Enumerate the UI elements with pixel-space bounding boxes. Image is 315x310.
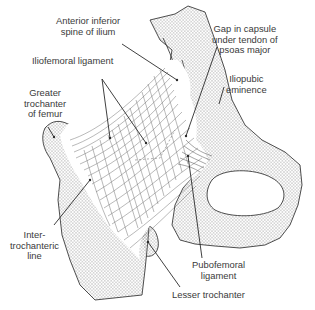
label-greater-trochanter: Greater trochanter of femur: [24, 88, 66, 120]
hip-joint-diagram: Anterior inferior spine of ilium Iliofem…: [0, 0, 315, 310]
label-gap-in-capsule: Gap in capsule under tendon of psoas maj…: [212, 24, 278, 56]
label-iliofemoral-ligament: Iliofemoral ligament: [32, 56, 113, 67]
label-intertrochanteric-line: Inter- trochanteric line: [10, 230, 59, 262]
label-lesser-trochanter: Lesser trochanter: [172, 290, 245, 301]
label-pubofemoral-ligament: Pubofemoral ligament: [192, 260, 245, 281]
label-anterior-inferior-spine: Anterior inferior spine of ilium: [56, 16, 120, 37]
label-iliopubic-eminence: Iliopubic eminence: [226, 74, 267, 95]
